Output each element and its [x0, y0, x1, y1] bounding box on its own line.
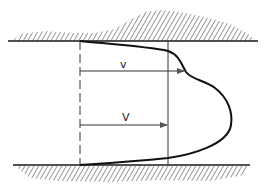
bottom-wall-hatch [15, 166, 250, 182]
velocity-profile-diagram: v V [0, 0, 268, 193]
label-V: V [122, 111, 130, 124]
velocity-profile-curve [80, 41, 231, 165]
label-v: v [120, 58, 127, 71]
top-wall-hatch [12, 10, 255, 41]
